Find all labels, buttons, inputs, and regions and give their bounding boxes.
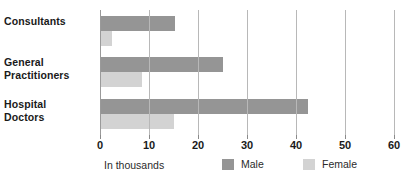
tick-label-10: 10 — [143, 139, 155, 151]
gridline-10 — [149, 10, 150, 135]
category-axis-labels: Consultants General Practitioners Hospit… — [0, 0, 96, 140]
legend-swatch-male-icon — [222, 159, 234, 170]
tick-label-50: 50 — [339, 139, 351, 151]
x-axis-ticks: 0102030405060 — [100, 135, 394, 155]
tick-label-20: 20 — [192, 139, 204, 151]
x-axis-label: In thousands — [104, 159, 164, 171]
plot-area — [100, 10, 394, 135]
category-label-consultants: Consultants — [4, 15, 88, 28]
gridline-50 — [345, 10, 346, 135]
bar-male-1 — [100, 57, 223, 72]
tick-label-0: 0 — [97, 139, 103, 151]
legend-item-male: Male — [222, 158, 264, 170]
gridline-20 — [198, 10, 199, 135]
bar-male-2 — [100, 99, 308, 114]
bar-male-0 — [100, 16, 175, 31]
gridline-60 — [394, 10, 395, 135]
bar-female-0 — [100, 31, 112, 46]
category-label-line: General — [4, 56, 88, 69]
chart-footer: In thousands Male Female — [0, 158, 409, 178]
legend-item-female: Female — [303, 158, 357, 170]
x-axis-baseline — [100, 10, 101, 135]
category-label-line: Doctors — [4, 111, 88, 124]
category-label-general-practitioners: General Practitioners — [4, 56, 88, 82]
bar-chart: Consultants General Practitioners Hospit… — [0, 0, 409, 186]
legend-label-female: Female — [322, 158, 357, 170]
legend-label-male: Male — [241, 158, 264, 170]
tick-label-40: 40 — [290, 139, 302, 151]
gridline-40 — [296, 10, 297, 135]
category-label-line: Hospital — [4, 98, 88, 111]
category-label-hospital-doctors: Hospital Doctors — [4, 98, 88, 124]
legend-swatch-female-icon — [303, 159, 315, 170]
category-label-line: Practitioners — [4, 69, 88, 82]
category-label-line: Consultants — [4, 15, 88, 28]
bar-female-1 — [100, 72, 142, 87]
bar-female-2 — [100, 114, 174, 129]
tick-label-60: 60 — [388, 139, 400, 151]
tick-label-30: 30 — [241, 139, 253, 151]
gridline-30 — [247, 10, 248, 135]
